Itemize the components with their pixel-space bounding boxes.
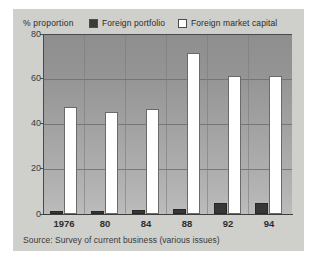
y-tick-mark-40 (40, 123, 43, 124)
legend-item-foreign-market-capital: Foreign market capital (178, 16, 277, 30)
x-axis-line (43, 214, 293, 215)
bar-foreign-market-capital-84 (146, 109, 159, 214)
bar-group-94 (248, 34, 289, 214)
plot-background (43, 34, 292, 214)
y-tick-mark-20 (40, 168, 43, 169)
bar-group-1976 (43, 34, 84, 214)
x-tick-label-94: 94 (264, 218, 275, 229)
chart-panel: % proportion Foreign portfolio Foreign m… (13, 9, 304, 251)
bar-foreign-market-capital-94 (269, 76, 282, 214)
y-tick-mark-0 (40, 214, 43, 215)
bar-foreign-market-capital-1976 (64, 107, 77, 214)
legend-swatch-foreign-portfolio (89, 19, 98, 28)
bar-foreign-portfolio-94 (255, 203, 268, 214)
legend-item-foreign-portfolio: Foreign portfolio (89, 16, 165, 30)
x-tick-label-1976: 1976 (53, 218, 74, 229)
x-tick-label-92: 92 (223, 218, 234, 229)
chart-figure: % proportion Foreign portfolio Foreign m… (0, 0, 323, 268)
bar-foreign-portfolio-92 (214, 203, 227, 214)
y-axis-ticks: 80 60 40 20 0 (15, 9, 41, 268)
legend-label-foreign-market-capital: Foreign market capital (191, 18, 277, 28)
bar-group-80 (84, 34, 125, 214)
x-tick-label-80: 80 (100, 218, 111, 229)
y-tick-label-80: 80 (17, 29, 41, 39)
bar-group-92 (207, 34, 248, 214)
y-tick-mark-60 (40, 78, 43, 79)
y-axis-line (43, 34, 44, 215)
x-tick-label-88: 88 (182, 218, 193, 229)
x-tick-label-84: 84 (141, 218, 152, 229)
legend-label-foreign-portfolio: Foreign portfolio (102, 18, 165, 28)
plot-area-wrapper (43, 34, 292, 214)
source-note: Source: Survey of current business (vari… (23, 235, 220, 245)
legend-swatch-foreign-market-capital (178, 19, 187, 28)
bar-group-88 (166, 34, 207, 214)
chart-legend: % proportion Foreign portfolio Foreign m… (13, 15, 304, 31)
y-tick-mark-80 (40, 34, 43, 35)
bar-foreign-market-capital-92 (228, 76, 241, 214)
y-tick-label-20: 20 (17, 163, 41, 173)
y-tick-label-40: 40 (17, 118, 41, 128)
bar-foreign-market-capital-88 (187, 53, 200, 214)
bar-group-84 (125, 34, 166, 214)
y-tick-label-60: 60 (17, 73, 41, 83)
y-tick-label-0: 0 (17, 209, 41, 219)
bar-foreign-market-capital-80 (105, 112, 118, 214)
